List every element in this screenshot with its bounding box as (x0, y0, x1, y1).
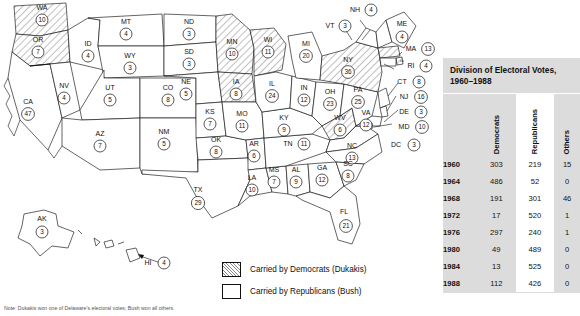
svg-text:29: 29 (194, 199, 202, 206)
svg-text:IL: IL (269, 80, 275, 87)
svg-text:23: 23 (326, 100, 334, 107)
table-cell-others: 0 (554, 258, 580, 275)
state-shape-MA (378, 46, 400, 58)
svg-text:AK: AK (37, 215, 47, 222)
svg-text:DC: DC (391, 141, 401, 148)
svg-text:PA: PA (354, 86, 363, 93)
table-cell-year: 1976 (443, 224, 477, 241)
state-shapes (8, 3, 416, 262)
table-head: Democrats Republicans Others (443, 94, 580, 156)
svg-text:TN: TN (283, 140, 292, 147)
svg-text:7: 7 (36, 48, 40, 55)
svg-text:HI: HI (145, 259, 152, 266)
table-cell-democrats: 303 (477, 156, 516, 173)
table-title: Division of Electoral Votes, 1960–1988 (443, 58, 580, 94)
column-header-others-label: Others (563, 130, 571, 154)
svg-text:8: 8 (417, 78, 421, 85)
svg-text:KS: KS (205, 108, 215, 115)
table-cell-year: 1964 (443, 173, 477, 190)
svg-text:TX: TX (194, 186, 203, 193)
column-header-democrats: Democrats (477, 94, 516, 156)
table-row: 19881124260 (443, 275, 580, 292)
svg-text:NH: NH (350, 6, 360, 13)
svg-text:WY: WY (124, 52, 136, 59)
table-cell-others: 15 (554, 156, 580, 173)
svg-text:9: 9 (282, 126, 286, 133)
svg-text:5: 5 (184, 90, 188, 97)
svg-text:UT: UT (105, 84, 115, 91)
svg-text:25: 25 (354, 98, 362, 105)
table-row: 1984135250 (443, 258, 580, 275)
table-cell-republicans: 520 (516, 207, 555, 224)
svg-text:3: 3 (40, 228, 44, 235)
table-cell-republicans: 240 (516, 224, 555, 241)
svg-text:ME: ME (397, 20, 408, 27)
table-cell-others: 0 (554, 275, 580, 292)
table-cell-democrats: 112 (477, 275, 516, 292)
column-header-republicans: Republicans (516, 94, 555, 156)
svg-text:WA: WA (36, 4, 47, 11)
footnote: Note: Dukakis won one of Delaware's elec… (4, 305, 434, 316)
legend-label-democrats: Carried by Democrats (Dukakis) (250, 265, 366, 274)
svg-text:FL: FL (340, 208, 348, 215)
svg-text:MD: MD (399, 123, 410, 130)
table-cell-others: 1 (554, 224, 580, 241)
svg-text:SD: SD (184, 48, 194, 55)
svg-text:NY: NY (343, 56, 353, 63)
svg-text:WI: WI (264, 36, 273, 43)
table-cell-year: 1988 (443, 275, 477, 292)
svg-text:11: 11 (301, 140, 308, 147)
svg-text:VT: VT (326, 22, 336, 29)
svg-text:AR: AR (249, 140, 259, 147)
svg-text:10: 10 (228, 50, 236, 57)
svg-text:3: 3 (412, 141, 416, 148)
svg-text:MN: MN (227, 38, 238, 45)
svg-text:5: 5 (108, 96, 112, 103)
svg-text:DE: DE (399, 108, 409, 115)
svg-text:36: 36 (344, 68, 352, 75)
svg-text:12: 12 (318, 176, 326, 183)
svg-text:4: 4 (124, 30, 128, 37)
table-cell-year: 1960 (443, 156, 477, 173)
svg-text:OR: OR (33, 36, 44, 43)
table-cell-democrats: 191 (477, 190, 516, 207)
svg-text:ID: ID (85, 40, 92, 47)
svg-text:3: 3 (187, 30, 191, 37)
svg-text:4: 4 (400, 33, 404, 40)
state-shape-OK (196, 136, 248, 160)
electoral-votes-table: Democrats Republicans Others 19603032191… (443, 94, 580, 292)
column-header-others: Others (554, 94, 580, 156)
svg-text:CT: CT (397, 78, 407, 85)
svg-text:4: 4 (86, 52, 90, 59)
svg-text:4: 4 (162, 259, 166, 266)
svg-text:IN: IN (301, 84, 308, 91)
table-row: 19762972401 (443, 224, 580, 241)
svg-text:GA: GA (317, 164, 327, 171)
svg-text:4: 4 (369, 6, 373, 13)
svg-text:CO: CO (163, 84, 174, 91)
table-cell-republicans: 525 (516, 258, 555, 275)
svg-text:MS: MS (269, 166, 280, 173)
table-cell-year: 1984 (443, 258, 477, 275)
legend-label-republicans: Carried by Republicans (Bush) (250, 287, 362, 296)
table-cell-others: 1 (554, 207, 580, 224)
svg-text:WV: WV (334, 114, 346, 121)
svg-text:3: 3 (187, 60, 191, 67)
svg-text:8: 8 (214, 148, 218, 155)
svg-text:NC: NC (347, 142, 357, 149)
electoral-votes-table-panel: Division of Electoral Votes, 1960–1988 D… (443, 58, 580, 293)
svg-text:24: 24 (268, 92, 276, 99)
table-cell-democrats: 13 (477, 258, 516, 275)
table-cell-republicans: 52 (516, 173, 555, 190)
table-row: 196030321915 (443, 156, 580, 173)
svg-text:ND: ND (184, 18, 194, 25)
table-cell-others: 0 (554, 173, 580, 190)
state-shape-CT (380, 58, 396, 66)
table-cell-republicans: 489 (516, 241, 555, 258)
svg-text:6: 6 (338, 126, 342, 133)
svg-text:MO: MO (236, 110, 248, 117)
svg-text:3: 3 (343, 22, 347, 29)
table-cell-democrats: 49 (477, 241, 516, 258)
column-header-democrats-label: Democrats (493, 115, 501, 154)
legend-item-democrats: Carried by Democrats (Dukakis) (222, 262, 437, 277)
